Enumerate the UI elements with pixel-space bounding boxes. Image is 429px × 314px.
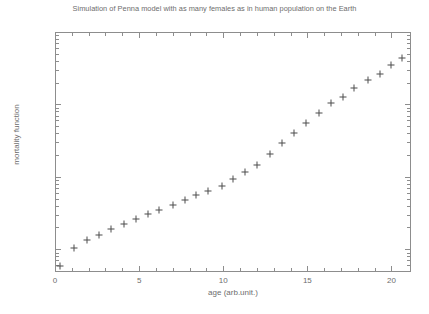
y-axis-tick-minor xyxy=(56,48,59,49)
x-axis-label: age (arb.unit.) xyxy=(55,288,411,297)
data-point-marker xyxy=(70,245,77,252)
y-axis-tick-minor-right xyxy=(407,126,410,127)
y-axis-tick-minor xyxy=(56,120,59,121)
y-axis-tick-minor xyxy=(56,206,59,207)
y-axis-tick-minor xyxy=(56,188,59,189)
x-axis-tick-major-top xyxy=(391,33,392,38)
y-axis-tick-minor-right xyxy=(407,111,410,112)
y-axis-tick-minor xyxy=(56,108,59,109)
axis-frame-left xyxy=(55,32,56,272)
y-axis-tick-minor xyxy=(56,180,59,181)
x-axis-tick-minor-top xyxy=(89,33,90,36)
x-axis-tick-major xyxy=(223,266,224,271)
x-axis-tick-minor xyxy=(358,268,359,271)
x-axis-tick-minor-top xyxy=(358,33,359,36)
x-axis-tick-minor-top xyxy=(375,33,376,36)
y-axis-tick-minor-right xyxy=(407,133,410,134)
data-point-marker xyxy=(327,100,334,107)
y-axis-tick-minor xyxy=(56,227,59,228)
data-point-marker xyxy=(120,220,127,227)
data-point-marker xyxy=(95,231,102,238)
y-axis-tick-minor xyxy=(56,253,59,254)
x-axis-tick-minor xyxy=(257,268,258,271)
x-axis-tick-minor-top xyxy=(291,33,292,36)
y-axis-tick-minor-right xyxy=(407,120,410,121)
y-axis-tick-minor-right xyxy=(407,39,410,40)
y-axis-tick-minor-right xyxy=(407,54,410,55)
y-axis-tick-minor-right xyxy=(407,256,410,257)
x-axis-tick-minor xyxy=(291,268,292,271)
y-axis-tick-minor xyxy=(56,70,59,71)
x-axis-tick-minor xyxy=(206,268,207,271)
y-axis-tick-minor xyxy=(56,126,59,127)
y-axis-tick-minor-right xyxy=(407,265,410,266)
y-axis-tick-major xyxy=(56,104,61,105)
data-point-marker xyxy=(302,120,309,127)
data-point-marker xyxy=(267,150,274,157)
x-axis-tick-minor xyxy=(156,268,157,271)
y-axis-tick-minor-right xyxy=(407,206,410,207)
x-axis-tick-minor-top xyxy=(274,33,275,36)
y-axis-tick-minor xyxy=(56,54,59,55)
y-axis-tick-minor xyxy=(56,39,59,40)
x-axis-tick-minor xyxy=(72,268,73,271)
x-axis-tick-label: 15 xyxy=(303,276,312,285)
y-axis-tick-minor xyxy=(56,133,59,134)
y-axis-tick-minor xyxy=(56,61,59,62)
y-axis-tick-minor-right xyxy=(407,108,410,109)
x-axis-tick-minor xyxy=(274,268,275,271)
y-axis-tick-minor xyxy=(56,155,59,156)
data-point-marker xyxy=(230,175,237,182)
x-axis-tick-label: 0 xyxy=(53,276,57,285)
x-axis-tick-minor-top xyxy=(324,33,325,36)
x-axis-tick-minor-top xyxy=(240,33,241,36)
y-axis-tick-minor-right xyxy=(407,43,410,44)
axis-frame-right xyxy=(410,32,411,272)
data-point-marker xyxy=(376,70,383,77)
y-axis-tick-minor-right xyxy=(407,70,410,71)
data-point-marker xyxy=(83,236,90,243)
y-axis-tick-minor-right xyxy=(407,193,410,194)
y-axis-tick-minor xyxy=(56,215,59,216)
plot-title: Simulation of Penna model with as many f… xyxy=(0,4,429,13)
x-axis-tick-major xyxy=(139,266,140,271)
plot-axes-area: 1010.10.01 05101520 xyxy=(55,32,411,272)
y-axis-tick-minor xyxy=(56,199,59,200)
x-axis-tick-major xyxy=(307,266,308,271)
y-axis-tick-minor-right xyxy=(407,188,410,189)
x-axis-tick-minor-top xyxy=(122,33,123,36)
x-axis-tick-major-top xyxy=(139,33,140,38)
data-point-marker xyxy=(388,62,395,69)
data-point-marker xyxy=(132,215,139,222)
y-axis-tick-minor-right xyxy=(407,227,410,228)
y-axis-tick-minor xyxy=(56,184,59,185)
y-axis-tick-minor xyxy=(56,43,59,44)
x-axis-tick-minor xyxy=(341,268,342,271)
y-axis-tick-minor-right xyxy=(407,61,410,62)
x-axis-tick-minor xyxy=(105,268,106,271)
y-axis-tick-minor-right xyxy=(407,48,410,49)
y-axis-tick-major-right xyxy=(405,249,410,250)
x-axis-tick-major xyxy=(391,266,392,271)
x-axis-tick-minor xyxy=(375,268,376,271)
y-axis-tick-minor xyxy=(56,83,59,84)
data-point-marker xyxy=(205,187,212,194)
axis-frame-bottom xyxy=(55,271,411,272)
x-axis-tick-major-top xyxy=(307,33,308,38)
data-point-marker xyxy=(193,192,200,199)
data-point-marker xyxy=(107,226,114,233)
x-axis-tick-minor-top xyxy=(105,33,106,36)
y-axis-tick-minor-right xyxy=(407,35,410,36)
x-axis-tick-minor-top xyxy=(206,33,207,36)
y-axis-tick-minor-right xyxy=(407,116,410,117)
data-point-marker xyxy=(398,54,405,61)
data-point-marker xyxy=(144,211,151,218)
y-axis-tick-major xyxy=(56,32,61,33)
x-axis-tick-minor xyxy=(324,268,325,271)
y-axis-tick-major-right xyxy=(405,177,410,178)
x-axis-tick-minor xyxy=(240,268,241,271)
y-axis-tick-minor xyxy=(56,256,59,257)
x-axis-tick-minor-top xyxy=(257,33,258,36)
data-point-marker xyxy=(181,197,188,204)
y-axis-tick-minor-right xyxy=(407,253,410,254)
